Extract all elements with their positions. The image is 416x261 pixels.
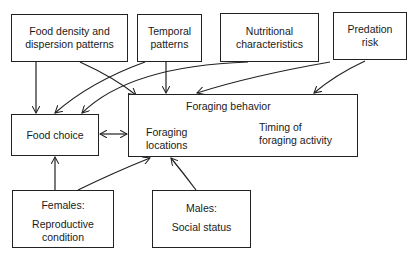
box-label: Predation	[348, 23, 393, 36]
box-label: Nutritional	[246, 25, 293, 38]
box-food-choice: Food choice	[11, 114, 99, 156]
box-label: characteristics	[236, 38, 303, 51]
box-males: Males: Social status	[152, 190, 251, 248]
box-food-density: Food density and dispersion patterns	[11, 14, 128, 62]
box-label: risk	[362, 36, 378, 49]
box-label: Food choice	[26, 129, 83, 142]
foraging-locations-label: Foraging locations	[146, 126, 187, 152]
box-label: patterns	[151, 38, 189, 51]
arrow-predation-to-foraging	[314, 61, 365, 93]
foraging-locations-line: locations	[146, 139, 187, 152]
box-temporal: Temporal patterns	[137, 14, 202, 62]
timing-label: Timing of foraging activity	[259, 121, 332, 147]
foraging-behavior-title: Foraging behavior	[186, 100, 271, 113]
box-label: condition	[42, 231, 84, 244]
arrow-food-density-to-foraging	[80, 62, 136, 95]
box-label: Social status	[172, 221, 232, 234]
arrow-females-to-foraging	[78, 158, 150, 190]
box-predation: Predation risk	[333, 12, 407, 60]
box-females: Females: Reproductive condition	[12, 190, 114, 248]
box-label: Temporal	[148, 25, 191, 38]
foraging-locations-line: Foraging	[146, 126, 187, 139]
box-label: Females:	[41, 199, 84, 212]
timing-line: foraging activity	[259, 134, 332, 147]
box-label: Food density and	[29, 25, 110, 38]
box-label: Males:	[186, 202, 217, 215]
arrow-males-to-foraging	[171, 158, 196, 190]
arrow-nutritional-to-foraging	[197, 62, 330, 93]
box-nutritional: Nutritional characteristics	[220, 13, 319, 62]
timing-line: Timing of	[259, 121, 332, 134]
box-label: dispersion patterns	[25, 38, 114, 51]
box-label: Reproductive	[32, 218, 94, 231]
